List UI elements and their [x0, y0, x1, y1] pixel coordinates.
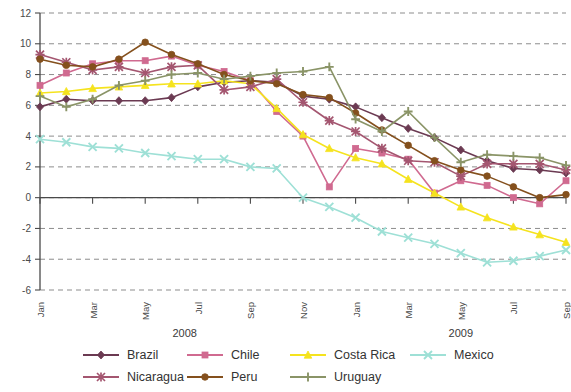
data-point-marker [220, 85, 229, 94]
data-point-marker [62, 102, 71, 111]
data-point-marker [142, 58, 148, 64]
legend-swatch-mexico [409, 348, 447, 362]
x-tick-label: May [140, 302, 151, 320]
legend-swatch-uruguay [289, 370, 327, 384]
legend-item-uruguay[interactable]: Uruguay [289, 370, 409, 384]
data-point-marker [404, 156, 413, 165]
y-tick-label: -6 [22, 285, 31, 296]
x-tick-label: Mar [403, 302, 414, 318]
data-point-marker [457, 203, 465, 210]
data-point-marker [89, 64, 96, 71]
line-chart: -6-4-2024681012 JanMarMayJulSepNovJanMar… [0, 0, 571, 344]
data-point-marker [483, 159, 492, 168]
legend-swatch-nicaragua [82, 370, 120, 384]
data-point-marker [431, 157, 438, 164]
data-point-marker [563, 191, 570, 198]
data-point-marker [168, 94, 175, 102]
data-point-marker [193, 69, 202, 78]
data-point-marker [326, 144, 334, 151]
x-tick-label: Sep [561, 302, 571, 319]
data-point-marker [88, 95, 97, 104]
legend-item-chile[interactable]: Chile [186, 348, 289, 362]
legend-item-nicaragua[interactable]: Nicaragua [82, 370, 186, 384]
x-tick-label: Jan [351, 302, 362, 317]
legend-item-peru[interactable]: Peru [186, 370, 289, 384]
y-tick-label: 8 [25, 69, 31, 80]
legend-label-mexico: Mexico [454, 348, 494, 362]
data-point-marker [168, 51, 175, 58]
legend-swatch-brazil [82, 348, 120, 362]
data-point-marker [457, 146, 464, 154]
data-point-marker [536, 194, 543, 201]
data-point-marker [353, 145, 359, 151]
x-tick-label: Nov [298, 302, 309, 319]
data-point-marker [299, 67, 308, 76]
data-point-marker [352, 214, 360, 222]
legend-label-costa-rica: Costa Rica [334, 348, 395, 362]
data-point-marker [510, 184, 517, 191]
y-tick-label: -2 [22, 223, 31, 234]
data-point-marker [377, 144, 386, 153]
legend-item-costa-rica[interactable]: Costa Rica [289, 348, 409, 362]
data-point-marker [404, 175, 412, 182]
data-point-marker [298, 98, 307, 107]
x-tick-label: Jul [508, 302, 519, 314]
data-point-marker [405, 124, 412, 132]
data-point-marker [304, 373, 313, 382]
data-point-marker [325, 203, 333, 211]
y-tick-label: 6 [25, 100, 31, 111]
data-point-marker [457, 249, 465, 257]
data-point-marker [484, 182, 490, 188]
y-tick-label: 10 [20, 38, 32, 49]
data-point-marker [537, 201, 543, 207]
data-point-marker [167, 70, 176, 79]
legend-item-brazil[interactable]: Brazil [82, 348, 186, 362]
data-point-marker [509, 159, 518, 168]
legend-item-mexico[interactable]: Mexico [409, 348, 509, 362]
y-tick-label: 4 [25, 131, 31, 142]
data-point-marker [325, 116, 334, 125]
data-point-marker [37, 82, 43, 88]
data-point-marker [483, 150, 492, 159]
data-point-marker [509, 152, 518, 161]
y-tick-label: -4 [22, 254, 31, 265]
data-point-marker [326, 184, 332, 190]
data-point-marker [351, 115, 360, 124]
data-point-marker [458, 167, 465, 174]
legend-label-brazil: Brazil [127, 348, 158, 362]
chart-legend: Brazil Chile Costa Rica Mexico Nicaragua [0, 344, 571, 392]
year-labels: 20082009 [172, 327, 473, 339]
legend-label-peru: Peru [231, 370, 257, 384]
legend-swatch-costa-rica [289, 348, 327, 362]
data-point-marker [63, 95, 70, 103]
data-point-marker [141, 68, 150, 77]
legend-label-uruguay: Uruguay [334, 370, 381, 384]
legend-label-chile: Chile [231, 348, 260, 362]
data-point-marker [325, 62, 334, 71]
data-point-marker [563, 178, 569, 184]
x-tick-label: Sep [245, 302, 256, 319]
year-label: 2008 [172, 327, 196, 339]
y-tick-label: 0 [25, 192, 31, 203]
data-point-marker [378, 114, 385, 122]
data-series [35, 39, 570, 266]
chart-container: -6-4-2024681012 JanMarMayJulSepNovJanMar… [0, 0, 571, 392]
legend-row-2: Nicaragua Peru Uruguay [0, 366, 571, 388]
x-tick-label: Jul [193, 302, 204, 314]
data-point-marker [326, 94, 333, 101]
data-point-marker [405, 142, 412, 149]
data-point-marker [115, 97, 122, 105]
x-tick-label: Mar [88, 302, 99, 318]
data-point-marker [484, 173, 491, 180]
data-point-marker [114, 62, 123, 71]
y-tick-label: 12 [20, 8, 32, 19]
legend-row-1: Brazil Chile Costa Rica Mexico [0, 344, 571, 366]
data-point-marker [97, 351, 104, 359]
legend-label-nicaragua: Nicaragua [127, 370, 184, 384]
x-tick-labels: JanMarMayJulSepNovJanMarMayJulSep [35, 302, 571, 320]
data-point-marker [202, 374, 209, 381]
x-tick-label: May [456, 302, 467, 320]
data-point-marker [142, 97, 149, 105]
data-point-marker [195, 60, 202, 67]
series-uruguay [36, 62, 571, 169]
